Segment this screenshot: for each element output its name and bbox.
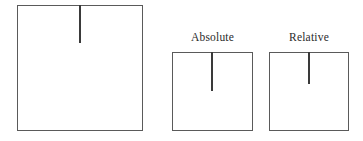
- panel-label-absolute: Absolute: [172, 31, 253, 44]
- figure-root: Absolute Relative: [0, 0, 363, 141]
- source-tick-mark: [79, 5, 81, 43]
- panel-label-relative: Relative: [269, 31, 349, 44]
- absolute-tick-mark: [211, 52, 213, 91]
- relative-tick-mark: [308, 52, 310, 84]
